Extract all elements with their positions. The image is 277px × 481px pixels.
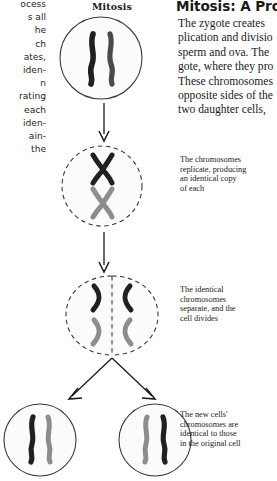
mitosis-diagram: Mitosis [46, 0, 178, 481]
caption-line: The chromosomes [180, 155, 277, 165]
article-headline: Mitosis: A Proc [176, 0, 277, 14]
caption-line: replicate, producing [180, 165, 277, 175]
cell-stage-daughter-left [0, 400, 80, 480]
chromosome-icon [31, 417, 33, 462]
textbook-page: ocess s all he ch ates, iden- n rating e… [0, 0, 277, 481]
left-text-line: ch [0, 38, 46, 51]
cell-membrane-icon [60, 17, 142, 99]
cell-membrane-icon [4, 404, 76, 476]
left-text-line: each [0, 104, 46, 117]
caption-line: an identical copy [180, 174, 277, 184]
caption-line: separate, and the [180, 304, 277, 314]
cell-stage-dividing [51, 273, 173, 359]
right-text-column: Mitosis: A Proc The zygote creates plica… [178, 0, 277, 118]
article-paragraph: The zygote creates plication and divisio… [178, 17, 277, 118]
chromosome-icon [48, 417, 50, 462]
cell-stage-parent [58, 14, 144, 102]
chromosome-icon [163, 417, 165, 462]
paragraph-line: gote, where they pro [178, 60, 277, 74]
caption-line: in the original cell [180, 439, 277, 449]
caption-replication: The chromosomes replicate, producing an … [180, 155, 277, 193]
left-text-line: iden- [0, 64, 46, 77]
cell-stage-replicated [60, 142, 144, 230]
left-text-line: ates, [0, 51, 46, 64]
paragraph-line: opposite sides of the [178, 89, 277, 103]
caption-line: cell divides [180, 314, 277, 324]
caption-line: The new cells' [180, 410, 277, 420]
arrow-replicated-to-dividing [96, 232, 112, 274]
paragraph-line: two daughter cells, [178, 103, 277, 117]
left-text-line: rating [0, 90, 46, 103]
left-text-column: ocess s all he ch ates, iden- n rating e… [0, 0, 46, 156]
cell-membrane-dashed-icon [112, 276, 158, 355]
chromosome-icon [145, 417, 147, 462]
caption-line: chromosomes are [180, 420, 277, 430]
caption-separation: The identical chromosomes separate, and … [180, 285, 277, 323]
caption-line: chromosomes [180, 295, 277, 305]
caption-daughter-cells: The new cells' chromosomes are identical… [180, 410, 277, 448]
left-text-line: ocess [0, 0, 46, 11]
left-text-line: n [0, 77, 46, 90]
left-text-line: he [0, 24, 46, 37]
diagram-title: Mitosis [46, 1, 178, 12]
caption-line: The identical [180, 285, 277, 295]
left-text-line: ain- [0, 130, 46, 143]
left-text-line: s all [0, 11, 46, 24]
left-text-line: iden- [0, 117, 46, 130]
paragraph-line: These chromosomes [178, 75, 277, 89]
chromosome-icon [110, 34, 113, 84]
cell-membrane-dashed-icon [62, 146, 142, 226]
arrows-dividing-to-daughters [32, 358, 192, 406]
caption-line: identical to those [180, 429, 277, 439]
paragraph-line: The zygote creates [178, 17, 277, 31]
paragraph-line: plication and divisio [178, 31, 277, 45]
chromosome-icon [91, 34, 94, 84]
arrow-parent-to-replicated [96, 103, 112, 143]
cell-membrane-dashed-icon [66, 276, 112, 355]
paragraph-line: sperm and ova. The [178, 46, 277, 60]
caption-line: of each [180, 184, 277, 194]
left-text-line: the [0, 143, 46, 156]
